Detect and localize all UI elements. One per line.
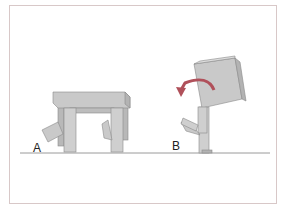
panel-b-label: B [172,139,180,153]
box-leg-left [198,107,207,133]
table-foot-right [102,120,112,140]
diagram-canvas: A B [0,0,288,211]
box-body [194,58,242,108]
arrow-head-icon [176,87,186,97]
table-apron [70,108,114,113]
panel-b-box [181,56,246,153]
table-front-leg-left [64,108,76,152]
panel-a-table [42,92,130,152]
table-front-leg-right [111,108,123,152]
panel-a-label: A [33,141,41,155]
table-top [53,92,130,108]
